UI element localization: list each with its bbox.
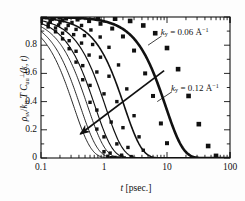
ann006-eq: = 0.06 Å bbox=[170, 27, 202, 37]
data-point-marker bbox=[151, 94, 155, 98]
annotation-ky-0.12: ky = 0.12 Å−1 bbox=[171, 83, 219, 93]
data-point-marker bbox=[186, 94, 191, 99]
data-point-marker bbox=[67, 39, 70, 42]
data-point-marker bbox=[80, 41, 83, 44]
ann006-sub: y bbox=[165, 32, 168, 38]
data-point-marker bbox=[121, 34, 125, 38]
data-point-marker bbox=[132, 114, 135, 117]
data-point-marker bbox=[165, 46, 170, 51]
ann012-sup: −1 bbox=[212, 84, 219, 90]
ylabel-k: k bbox=[19, 104, 29, 108]
ylabel-T: T bbox=[19, 93, 29, 98]
data-point-marker bbox=[176, 67, 181, 72]
xtick-label-1: 1 bbox=[92, 162, 116, 172]
ann006-sup: −1 bbox=[202, 28, 209, 34]
data-point-marker bbox=[132, 49, 136, 53]
data-point-marker bbox=[89, 28, 92, 31]
data-point-marker bbox=[107, 75, 110, 78]
ylabel-B: B bbox=[23, 100, 30, 104]
xtick-label-10: 10 bbox=[155, 162, 179, 172]
xlabel-var: t bbox=[121, 182, 124, 193]
data-point-marker bbox=[87, 53, 90, 56]
data-point-marker bbox=[102, 135, 105, 138]
ylabel-rho: ρ bbox=[19, 117, 29, 121]
ylabel-uu: uu bbox=[23, 78, 30, 84]
y-axis-label: ρsv/kB T Cuu⊥(k, t) bbox=[18, 19, 29, 159]
annotation-ky-0.06: ky = 0.06 Å−1 bbox=[161, 27, 209, 37]
data-point-marker bbox=[126, 146, 129, 149]
data-point-marker bbox=[165, 141, 169, 145]
data-point-marker bbox=[110, 27, 114, 31]
data-point-marker bbox=[74, 28, 77, 31]
data-point-marker bbox=[107, 46, 110, 49]
data-point-marker bbox=[66, 24, 69, 27]
data-point-marker bbox=[159, 121, 163, 125]
data-point-marker bbox=[96, 15, 101, 20]
data-point-marker bbox=[61, 32, 64, 35]
ylabel-sv: sv bbox=[23, 111, 30, 117]
data-point-marker bbox=[143, 71, 147, 75]
data-point-marker bbox=[153, 31, 158, 36]
data-point-marker bbox=[214, 154, 219, 159]
data-point-marker bbox=[99, 22, 103, 26]
data-point-marker bbox=[88, 101, 91, 104]
ylabel-arg: (k, t) bbox=[19, 56, 29, 74]
data-point-marker bbox=[197, 122, 202, 127]
ylabel-slash: / bbox=[19, 109, 29, 112]
x-axis-label: t [psec.] bbox=[41, 182, 231, 193]
data-point-marker bbox=[113, 16, 118, 21]
data-point-marker bbox=[128, 19, 133, 24]
data-point-marker bbox=[98, 35, 101, 38]
data-point-marker bbox=[58, 15, 63, 20]
data-point-marker bbox=[102, 150, 105, 153]
ylabel-perp: ⊥ bbox=[18, 73, 25, 78]
figure-panel: 0.8 0.6 0.4 0.2 0 0.1 1 10 100 ρsv/kB T … bbox=[0, 0, 245, 201]
data-point-marker bbox=[137, 135, 140, 138]
data-point-marker bbox=[81, 64, 84, 67]
data-point-marker bbox=[125, 87, 128, 90]
xtick-label-0.1: 0.1 bbox=[29, 162, 53, 172]
data-point-marker bbox=[88, 84, 91, 87]
data-point-marker bbox=[117, 63, 120, 66]
xtick-label-100: 100 bbox=[218, 162, 242, 172]
data-point-marker bbox=[74, 50, 77, 53]
data-point-marker bbox=[77, 15, 82, 20]
data-point-marker bbox=[83, 34, 86, 37]
data-point-marker bbox=[141, 23, 146, 28]
data-point-marker bbox=[91, 43, 94, 46]
data-point-marker bbox=[54, 26, 57, 29]
data-point-marker bbox=[102, 92, 105, 95]
data-point-marker bbox=[115, 100, 118, 103]
data-point-marker bbox=[206, 144, 211, 149]
data-point-marker bbox=[115, 142, 118, 145]
xlabel-unit: [psec.] bbox=[126, 182, 152, 193]
data-point-marker bbox=[72, 33, 75, 36]
data-point-marker bbox=[95, 70, 98, 73]
data-point-marker bbox=[39, 15, 44, 20]
data-point-marker bbox=[80, 24, 83, 27]
ann012-eq: = 0.12 Å bbox=[180, 83, 212, 93]
ann012-sub: y bbox=[175, 88, 178, 94]
data-point-marker bbox=[121, 126, 124, 129]
data-point-marker bbox=[99, 55, 102, 58]
ylabel-C: C bbox=[19, 85, 29, 91]
data-point-marker bbox=[81, 78, 84, 81]
